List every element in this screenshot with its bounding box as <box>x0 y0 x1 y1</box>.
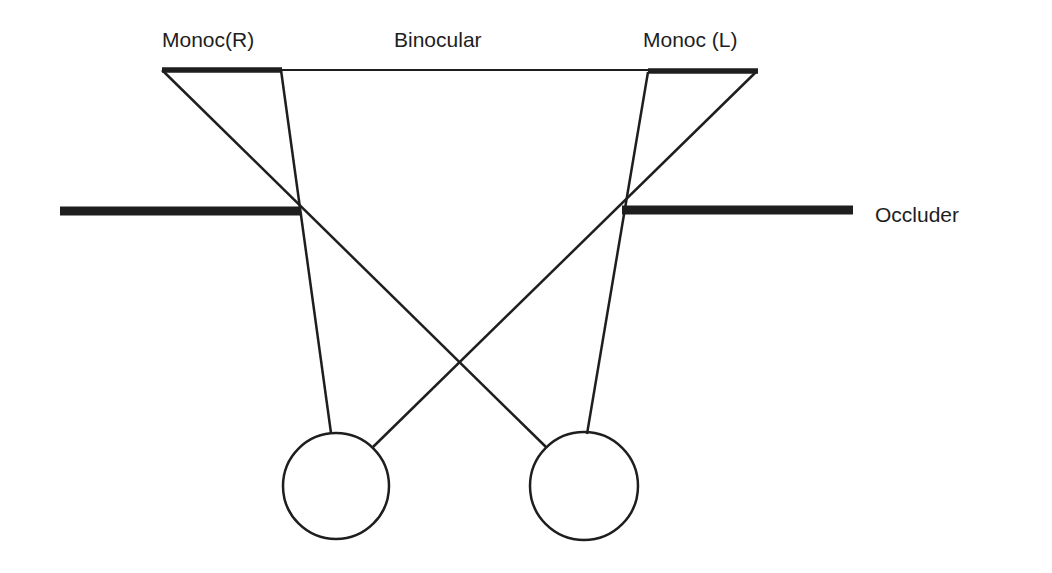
sight-line-left-eye-outer <box>373 71 757 447</box>
label-monoc-left: Monoc (L) <box>643 28 738 51</box>
right-eye-circle <box>530 432 638 540</box>
label-binocular: Binocular <box>394 28 482 51</box>
left-eye-circle <box>283 433 389 539</box>
label-occluder: Occluder <box>875 203 959 226</box>
binocular-occlusion-diagram: Monoc(R) Binocular Monoc (L) Occluder <box>0 0 1052 573</box>
sight-line-right-eye-inner <box>587 72 648 434</box>
sight-line-right-eye-outer <box>162 70 546 447</box>
label-monoc-right: Monoc(R) <box>162 28 254 51</box>
sight-line-left-eye-inner <box>281 70 331 433</box>
